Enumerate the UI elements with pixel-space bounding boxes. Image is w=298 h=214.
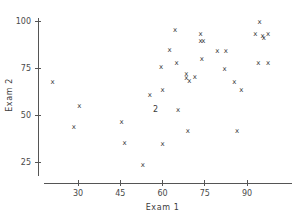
y-axis-ticks: 255075100: [16, 17, 41, 167]
data-point-marker: x: [175, 59, 179, 67]
data-point-marker: x: [215, 47, 219, 55]
y-axis-group: 255075100: [16, 17, 41, 176]
data-point-marker: x: [224, 47, 228, 55]
data-point-marker: x: [232, 78, 236, 86]
data-point-marker: x: [160, 140, 164, 148]
x-tick-label: 60: [157, 189, 167, 198]
y-tick-label: 75: [21, 64, 31, 73]
x-tick-label: 75: [200, 189, 210, 198]
x-tick-label: 90: [242, 189, 252, 198]
data-point-marker: x: [173, 26, 177, 34]
data-point-marker: x: [122, 139, 126, 147]
data-point-marker: x: [186, 127, 190, 135]
data-point-cluster: 2: [153, 105, 158, 114]
x-axis-title: Exam 1: [146, 203, 180, 212]
data-point-marker: x: [148, 91, 152, 99]
x-tick-label: 30: [73, 189, 83, 198]
data-point-marker: x: [222, 65, 226, 73]
data-point-marker: x: [193, 73, 197, 81]
data-point-marker: x: [72, 123, 76, 131]
data-point-marker: x: [239, 86, 243, 94]
data-point-layer: xxxxxxx2xxxxxxxxxxxxxxxxxxxxxxxxxxxxx: [51, 18, 271, 169]
data-point-marker: x: [159, 63, 163, 71]
data-point-marker: x: [51, 78, 55, 86]
y-tick-label: 25: [21, 158, 31, 167]
data-point-marker: x: [176, 106, 180, 114]
data-point-marker: x: [77, 102, 81, 110]
data-point-marker: x: [235, 127, 239, 135]
x-axis-group: 3045607590: [44, 180, 292, 198]
y-tick-label: 50: [21, 111, 31, 120]
data-point-marker: x: [201, 37, 205, 45]
data-point-marker: x: [187, 77, 191, 85]
plot-canvas: 255075100 3045607590 xxxxxxx2xxxxxxxxxxx…: [0, 0, 298, 214]
data-point-marker: x: [200, 55, 204, 63]
data-point-marker: x: [266, 30, 270, 38]
data-point-marker: x: [141, 161, 145, 169]
data-point-marker: x: [258, 18, 262, 26]
x-tick-label: 45: [115, 189, 125, 198]
data-point-marker: x: [253, 30, 257, 38]
scatter-plot-figure: 255075100 3045607590 xxxxxxx2xxxxxxxxxxx…: [0, 0, 298, 214]
data-point-marker: x: [160, 86, 164, 94]
data-point-marker: x: [167, 46, 171, 54]
y-axis-title: Exam 2: [5, 78, 14, 112]
data-point-marker: x: [256, 59, 260, 67]
data-point-marker: x: [266, 59, 270, 67]
data-point-marker: x: [120, 118, 124, 126]
y-tick-label: 100: [16, 17, 31, 26]
